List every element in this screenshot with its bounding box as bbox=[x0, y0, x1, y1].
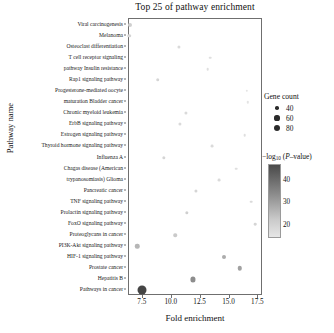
gene-count-legend-title: Gene count bbox=[264, 92, 334, 101]
y-axis-tick-mark bbox=[124, 78, 127, 79]
y-axis-tick-mark bbox=[124, 156, 127, 157]
y-axis-tick-label: Progesterone-mediated oocyte bbox=[55, 87, 123, 93]
y-axis-tick-mark bbox=[124, 112, 127, 113]
colorbar-tick-label: 40 bbox=[283, 176, 290, 184]
gene-count-legend-value: 60 bbox=[286, 114, 293, 123]
y-axis-tick-mark bbox=[124, 234, 127, 235]
colorbar-tick-label: 30 bbox=[283, 198, 290, 206]
chart-root: Top 25 of pathway enrichment Pathway nam… bbox=[0, 0, 334, 333]
data-point bbox=[135, 244, 139, 248]
data-point bbox=[250, 200, 253, 203]
colorbar-tick-label: 20 bbox=[283, 221, 290, 229]
gene-count-legend-value: 40 bbox=[286, 104, 293, 113]
data-point bbox=[209, 56, 212, 59]
data-point bbox=[238, 266, 242, 270]
data-point bbox=[128, 23, 132, 27]
data-point bbox=[246, 90, 248, 92]
y-axis-tick-label: ErbB signaling pathway bbox=[69, 120, 123, 126]
gene-count-legend-item: 60 bbox=[270, 113, 334, 123]
data-point bbox=[173, 233, 177, 237]
gene-count-legend-marker bbox=[270, 115, 284, 120]
data-point bbox=[247, 101, 249, 103]
y-axis-tick-mark bbox=[124, 101, 127, 102]
data-point bbox=[177, 45, 180, 48]
y-axis-tick-label: Viral carcinogenesis bbox=[78, 20, 123, 26]
y-axis-tick-label: T cell receptor signaling bbox=[69, 54, 123, 60]
y-axis-tick-label: FoxO signaling pathway bbox=[68, 220, 123, 226]
data-point bbox=[211, 145, 214, 148]
data-point bbox=[184, 112, 187, 115]
plot-area bbox=[128, 18, 262, 295]
y-axis-tick-label: Pathways in cancer bbox=[80, 286, 123, 292]
y-axis-tick-label: Chronic myeloid leukemia bbox=[63, 109, 123, 115]
colorbar-title-close: –value) bbox=[290, 152, 312, 161]
y-axis-tick-label: trypanosomiasis) Glioma bbox=[67, 176, 123, 182]
y-axis-tick-labels: Viral carcinogenesisMelanomaOsteoclast d… bbox=[0, 18, 126, 295]
gene-count-legend-marker bbox=[270, 106, 284, 110]
x-axis-tick-label: 12.5 bbox=[193, 298, 206, 306]
y-axis-tick-mark bbox=[124, 34, 127, 35]
y-axis-tick-label: Prostate cancer bbox=[89, 264, 123, 270]
y-axis-tick-label: Hepatitis B bbox=[98, 275, 123, 281]
gene-count-legend-dot bbox=[274, 115, 279, 120]
x-axis-tick-label: 7.5 bbox=[137, 298, 146, 306]
y-axis-tick-mark bbox=[124, 23, 127, 24]
data-point bbox=[185, 211, 188, 214]
y-axis-tick-label: Proteoglycans in cancer bbox=[70, 231, 123, 237]
data-point bbox=[156, 78, 160, 82]
data-point bbox=[206, 68, 209, 71]
y-axis-tick-mark bbox=[124, 289, 127, 290]
colorbar-gradient bbox=[268, 164, 281, 238]
y-axis-tick-mark bbox=[124, 267, 127, 268]
y-axis-tick-mark bbox=[124, 200, 127, 201]
data-point bbox=[127, 34, 131, 38]
colorbar-title-prefix: −log bbox=[262, 152, 276, 161]
y-axis-tick-mark bbox=[124, 245, 127, 246]
y-axis-tick-mark bbox=[124, 123, 127, 124]
x-axis-tick-label: 17.5 bbox=[251, 298, 264, 306]
data-point bbox=[254, 223, 257, 226]
gene-count-legend: Gene count 406080 bbox=[264, 92, 334, 133]
y-axis-tick-label: Pancreatic cancer bbox=[84, 187, 123, 193]
y-axis-tick-label: Rap1 signaling pathway bbox=[69, 76, 123, 82]
y-axis-tick-label: PI3K-Akt signaling pathway bbox=[59, 242, 123, 248]
y-axis-tick-label: Prolactin signaling pathway bbox=[61, 209, 123, 215]
y-axis-tick-mark bbox=[124, 145, 127, 146]
gene-count-legend-items: 406080 bbox=[264, 103, 334, 133]
y-axis-tick-label: Melanoma bbox=[99, 32, 123, 38]
x-axis-title: Fold enrichment bbox=[128, 313, 262, 323]
gene-count-legend-value: 80 bbox=[286, 124, 293, 133]
y-axis-tick-label: HIF-1 signaling pathway bbox=[67, 253, 123, 259]
data-point bbox=[222, 255, 226, 259]
data-point bbox=[235, 167, 238, 170]
y-axis-tick-mark bbox=[124, 278, 127, 279]
data-points-layer bbox=[129, 19, 261, 294]
y-axis-tick-mark bbox=[124, 67, 127, 68]
y-axis-tick-label: Chagas disease (American bbox=[64, 164, 123, 170]
colorbar-wrapper: 403020 bbox=[268, 164, 328, 238]
data-point bbox=[190, 277, 195, 282]
y-axis-tick-mark bbox=[124, 56, 127, 57]
y-axis-tick-mark bbox=[124, 189, 127, 190]
gene-count-legend-item: 40 bbox=[270, 103, 334, 113]
gene-count-legend-item: 80 bbox=[270, 123, 334, 133]
data-point bbox=[243, 134, 246, 137]
y-axis-tick-label: Influenza A bbox=[97, 153, 123, 159]
data-point bbox=[218, 178, 221, 181]
pvalue-colorbar-title: −log10 (P–value) bbox=[262, 152, 334, 161]
gene-count-legend-dot bbox=[274, 125, 281, 132]
y-axis-tick-mark bbox=[124, 45, 127, 46]
y-axis-tick-mark bbox=[124, 222, 127, 223]
y-axis-tick-label: pathway Insulin resistance bbox=[64, 65, 123, 71]
gene-count-legend-dot bbox=[275, 106, 279, 110]
x-axis-tick-label: 15.0 bbox=[222, 298, 235, 306]
data-point bbox=[162, 156, 165, 159]
y-axis-tick-label: maturation Bladder cancer bbox=[64, 98, 123, 104]
y-axis-tick-mark bbox=[124, 90, 127, 91]
data-point bbox=[194, 189, 197, 192]
y-axis-tick-mark bbox=[124, 134, 127, 135]
y-axis-tick-mark bbox=[124, 167, 127, 168]
chart-title: Top 25 of pathway enrichment bbox=[128, 2, 262, 12]
x-axis-tick-label: 10.0 bbox=[164, 298, 177, 306]
y-axis-tick-mark bbox=[124, 211, 127, 212]
